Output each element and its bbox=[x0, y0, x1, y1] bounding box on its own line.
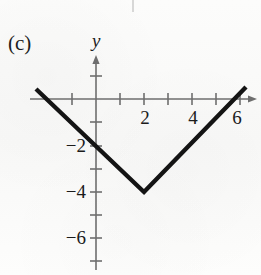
y-axis-arrowhead-icon bbox=[92, 55, 99, 64]
x-axis-arrowhead-icon bbox=[248, 95, 257, 102]
x-tick-label-2: 2 bbox=[138, 108, 152, 127]
figure-panel-c: (c) y 2 4 6 −2 −4 −6 bbox=[0, 0, 261, 275]
panel-label: (c) bbox=[8, 33, 31, 54]
y-tick-label-minus-4: −4 bbox=[54, 182, 86, 201]
x-tick-label-6: 6 bbox=[230, 108, 244, 127]
x-tick-label-4: 4 bbox=[186, 108, 200, 127]
y-axis-label: y bbox=[92, 31, 100, 50]
coordinate-plot bbox=[0, 0, 261, 275]
y-tick-label-minus-6: −6 bbox=[54, 228, 86, 247]
y-tick-label-minus-2: −2 bbox=[54, 136, 86, 155]
